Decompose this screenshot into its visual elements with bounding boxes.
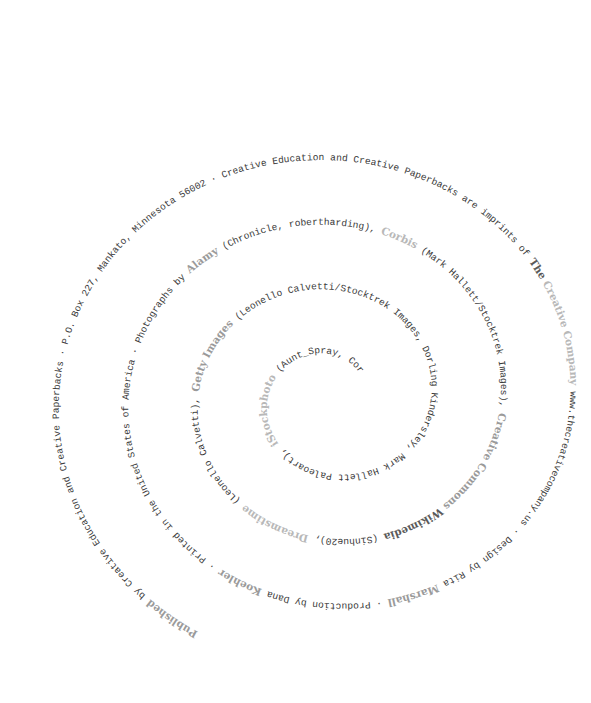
credit-text: (SPUTNIK), <box>0 0 3 3</box>
credit-brand-name: Published <box>143 597 199 641</box>
credit-text: (Leonello Calvetti), <box>190 391 247 510</box>
credit-text: · Production by Dana <box>260 587 389 612</box>
credit-text: (Chronicle, robertharding), <box>215 217 383 255</box>
credit-brand-name: iStockphoto <box>257 372 281 449</box>
credit-brand-name: Creative Company <box>539 275 580 386</box>
credit-brand-name: Koehler <box>215 567 263 599</box>
credit-brand-name: Dreamstime <box>238 503 309 545</box>
credit-brand-name: Marshall <box>387 582 441 609</box>
credit-brand-name: Science <box>0 0 4 2</box>
credit-text: (AuntSpray, Graphic_Design, nuclear_lily… <box>0 0 3 3</box>
credit-brand-name: Creative Commons <box>441 412 508 513</box>
credit-brand-name: Wikimedia <box>382 504 448 544</box>
copyright-text: Published by Creative Education and Crea… <box>0 0 581 641</box>
copyright-page: Published by Creative Education and Crea… <box>0 0 591 703</box>
credit-brand-name: Corbis <box>380 224 420 250</box>
copyright-textpath: Published by Creative Education and Crea… <box>0 0 581 641</box>
credit-brand-name: Getty Images <box>189 317 235 393</box>
credit-text: (Sinhue20), <box>307 531 385 547</box>
credit-text: (Leonello Calvetti/Stocktrek Images, Dor… <box>228 281 439 483</box>
credit-text: · Printed in the United States of Americ… <box>120 268 222 576</box>
credit-brand-name: Shutterstock <box>0 0 4 2</box>
credit-text: (Mark Hallett/Stocktrek Images), <box>414 242 509 414</box>
spiral-copyright-text: Published by Creative Education and Crea… <box>0 0 591 703</box>
credit-brand-name: Photo Library <box>0 0 4 2</box>
credit-brand-name: Alamy <box>183 243 221 275</box>
